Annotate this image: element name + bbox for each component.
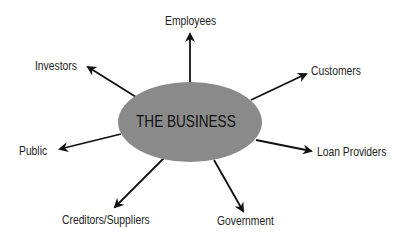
- arrow-investors: [88, 67, 136, 97]
- arrow-government: [214, 160, 243, 211]
- arrow-customers: [251, 74, 306, 100]
- label-public: Public: [19, 144, 47, 158]
- arrow-creditors-suppliers: [115, 158, 164, 207]
- label-investors: Investors: [35, 59, 77, 73]
- label-government: Government: [217, 214, 274, 228]
- center-label: THE BUSINESS: [136, 112, 236, 132]
- label-creditors-suppliers: Creditors/Suppliers: [62, 213, 150, 227]
- arrow-public: [60, 134, 121, 149]
- label-employees: Employees: [165, 14, 216, 28]
- label-customers: Customers: [311, 64, 361, 78]
- stakeholder-diagram: THE BUSINESS Employees Customers Loan Pr…: [0, 0, 416, 240]
- label-loan-providers: Loan Providers: [317, 145, 386, 159]
- arrow-loan-providers: [256, 140, 311, 151]
